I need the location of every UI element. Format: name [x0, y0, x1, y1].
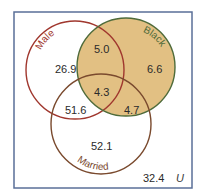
- region-outside: 32.4: [143, 172, 164, 184]
- region-male-black: 5.0: [94, 43, 109, 55]
- region-black-married: 4.7: [124, 104, 139, 116]
- region-married-only: 52.1: [91, 140, 112, 152]
- region-black-only: 6.6: [147, 63, 162, 75]
- region-male-only: 26.9: [55, 63, 76, 75]
- region-male-married: 51.6: [65, 104, 86, 116]
- universe-label: U: [176, 172, 184, 184]
- region-all-three: 4.3: [94, 86, 109, 98]
- venn-diagram: Male Black Married 26.9 5.0 6.6 4.3 51.6…: [0, 0, 205, 191]
